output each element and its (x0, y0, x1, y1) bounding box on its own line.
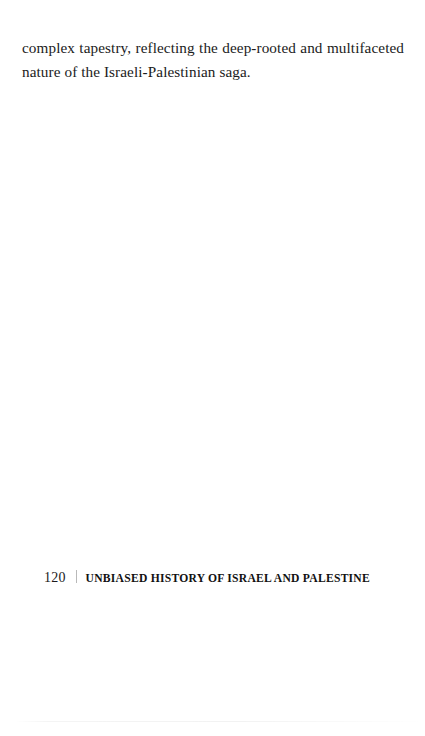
page-number: 120 (44, 570, 66, 586)
running-title: UNBIASED HISTORY OF ISRAEL AND PALESTINE (86, 571, 370, 587)
footer-divider (76, 570, 77, 583)
book-page: complex tapestry, reflecting the deep-ro… (0, 0, 425, 736)
text-column: complex tapestry, reflecting the deep-ro… (22, 36, 404, 84)
body-paragraph: complex tapestry, reflecting the deep-ro… (22, 36, 404, 84)
page-edge-line (15, 721, 425, 722)
page-footer: 120 UNBIASED HISTORY OF ISRAEL AND PALES… (44, 569, 404, 587)
